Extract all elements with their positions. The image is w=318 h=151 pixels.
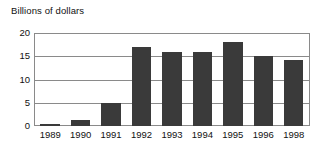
x-axis-tick-labels: 1989 1990 1991 1992 1993 1994 1995 1996 …: [34, 129, 310, 141]
bar-1996[interactable]: [254, 56, 273, 126]
bar-slot: [248, 33, 278, 126]
bar-slot: [279, 33, 309, 126]
y-tick-label: 0: [0, 121, 30, 131]
bar-slot: [218, 33, 248, 126]
chart-title: Billions of dollars: [11, 5, 84, 16]
x-tick-label: 1996: [248, 129, 278, 141]
bar-1989[interactable]: [40, 124, 59, 126]
bars-layer: [34, 33, 310, 126]
bar-1998[interactable]: [284, 60, 303, 126]
x-tick-label: 1991: [96, 129, 126, 141]
bar-1994[interactable]: [193, 52, 212, 126]
x-tick-label: 1989: [35, 129, 65, 141]
bar-1990[interactable]: [71, 120, 90, 126]
bar-slot: [126, 33, 156, 126]
y-tick-label: 15: [0, 51, 30, 61]
x-tick-label: 1994: [187, 129, 217, 141]
x-tick-label: 1993: [157, 129, 187, 141]
bar-1992[interactable]: [132, 47, 151, 126]
bar-slot: [96, 33, 126, 126]
bar-slot: [65, 33, 95, 126]
bar-1993[interactable]: [162, 52, 181, 126]
bar-chart-figure: Billions of dollars 20 15 10 5 0 1989 19…: [0, 0, 318, 151]
x-tick-label: 1998: [279, 129, 309, 141]
bar-1995[interactable]: [223, 42, 242, 126]
x-tick-label: 1992: [126, 129, 156, 141]
bar-slot: [35, 33, 65, 126]
y-tick-label: 10: [0, 75, 30, 85]
x-tick-label: 1990: [65, 129, 95, 141]
x-tick-label: 1995: [218, 129, 248, 141]
bar-slot: [157, 33, 187, 126]
y-tick-label: 20: [0, 28, 30, 38]
y-tick-label: 5: [0, 98, 30, 108]
bar-1991[interactable]: [101, 103, 120, 126]
y-axis-tick-labels: 20 15 10 5 0: [0, 33, 30, 126]
bar-slot: [187, 33, 217, 126]
